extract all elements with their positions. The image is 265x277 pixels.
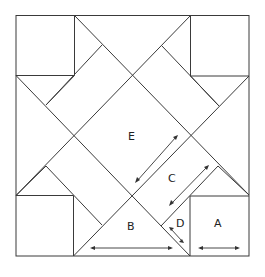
quilt-block-diagram: E C D A B xyxy=(0,0,265,277)
label-c: C xyxy=(168,172,176,185)
label-d: D xyxy=(176,217,184,230)
label-e: E xyxy=(128,130,135,143)
grain-arrow-a xyxy=(198,246,240,250)
grain-arrow-b xyxy=(90,246,173,250)
label-b: B xyxy=(127,220,135,233)
label-a: A xyxy=(214,217,222,230)
